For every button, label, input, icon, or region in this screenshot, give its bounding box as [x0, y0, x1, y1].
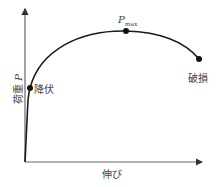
max-load-symbol: P — [118, 14, 125, 25]
max-load-label: Pmax — [118, 14, 137, 27]
y-axis-label-text: 荷重 — [13, 84, 24, 104]
yield-point — [27, 85, 33, 91]
x-axis-label: 伸び — [102, 166, 122, 181]
fracture-point — [196, 56, 202, 62]
load-elongation-diagram — [0, 0, 219, 187]
fracture-label: 破損 — [188, 70, 208, 85]
load-curve — [25, 31, 199, 162]
y-axis-label-symbol: P — [13, 74, 24, 81]
max-load-subscript: max — [125, 20, 138, 27]
yield-label: 降伏 — [34, 81, 54, 96]
max-load-point — [123, 28, 129, 34]
y-axis-label: 荷重 P — [10, 74, 25, 104]
